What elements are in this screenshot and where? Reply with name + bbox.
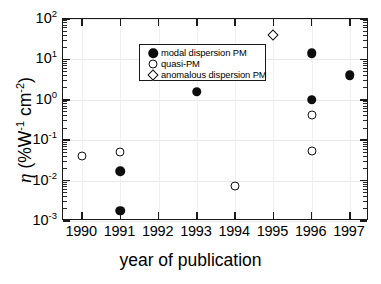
y-title-mid: cm: [15, 93, 35, 121]
y-tick-exponent: 1: [52, 49, 57, 60]
y-tick-exponent: -2: [49, 170, 57, 181]
y-title-close: ): [15, 77, 35, 83]
x-tick-label: 1990: [66, 223, 97, 239]
x-tick-label: 1997: [333, 223, 364, 239]
axis-labels-layer: 10210110010-110-210-3 199019911992199319…: [0, 0, 381, 284]
y-tick-label: 102: [12, 10, 57, 26]
y-tick-exponent: 0: [52, 89, 57, 100]
x-axis-title: year of publication: [0, 250, 381, 271]
y-tick-exponent: 2: [52, 8, 57, 19]
x-tick-label: 1992: [142, 223, 173, 239]
scatter-plot-figure: modal dispersion PMquasi-PManomalous dis…: [0, 0, 381, 284]
y-axis-title: η (%W-1 cm-2): [14, 35, 36, 225]
x-tick-label: 1991: [104, 223, 135, 239]
y-tick-mantissa: 10: [36, 10, 52, 26]
y-title-open: (%W: [15, 131, 35, 174]
y-tick-exponent: -1: [49, 129, 57, 140]
y-tick-mantissa: 10: [36, 50, 52, 66]
x-tick-label: 1996: [295, 223, 326, 239]
x-tick-label: 1994: [219, 223, 250, 239]
x-tick-label: 1995: [257, 223, 288, 239]
y-tick-exponent: -3: [49, 210, 57, 221]
y-title-exp1: -1: [14, 121, 26, 131]
eta-symbol: η: [14, 173, 35, 182]
y-tick-mantissa: 10: [36, 91, 52, 107]
x-tick-label: 1993: [180, 223, 211, 239]
y-title-exp2: -2: [14, 83, 26, 93]
